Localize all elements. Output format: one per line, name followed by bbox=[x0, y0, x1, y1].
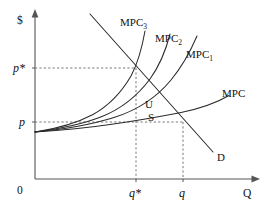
x-tick-label-q-star: q* bbox=[129, 186, 141, 200]
economics-chart: $ Q 0 p* p q* q U S MPC3 MPC2 MPC1 MPC D bbox=[0, 0, 268, 211]
curve-demand bbox=[90, 14, 213, 152]
x-tick-label-q: q bbox=[179, 186, 185, 200]
y-axis-arrow-icon bbox=[32, 9, 39, 18]
y-tick-label-p: p bbox=[18, 115, 25, 129]
x-axis-label: Q bbox=[243, 187, 252, 199]
y-axis-label: $ bbox=[17, 14, 23, 26]
curve-label-demand: D bbox=[217, 151, 225, 163]
curve-label-mpc1: MPC1 bbox=[186, 48, 213, 63]
curves-group bbox=[35, 14, 229, 152]
point-label-s: S bbox=[148, 111, 154, 123]
curve-label-mpc: MPC bbox=[222, 87, 245, 99]
guide-lines-group bbox=[35, 68, 183, 179]
origin-label: 0 bbox=[17, 184, 23, 196]
curve-label-mpc3: MPC3 bbox=[120, 16, 147, 31]
chart-svg: $ Q 0 p* p q* q U S MPC3 MPC2 MPC1 MPC D bbox=[0, 0, 268, 211]
curve-mpc3 bbox=[35, 31, 145, 132]
curve-mpc bbox=[35, 96, 229, 133]
y-tick-label-p-star: p* bbox=[12, 61, 25, 75]
point-label-u: U bbox=[145, 98, 153, 110]
x-axis-arrow-icon bbox=[252, 176, 261, 183]
curve-label-mpc2: MPC2 bbox=[155, 32, 182, 47]
curve-mpc1 bbox=[35, 36, 197, 132]
